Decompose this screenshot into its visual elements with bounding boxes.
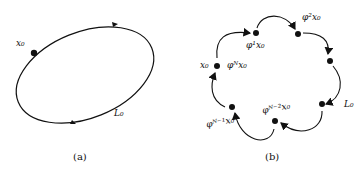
- label-L0-b: L₀: [344, 99, 354, 109]
- arrow-head-top: [112, 22, 118, 27]
- label-L0-a: L₀: [114, 108, 124, 118]
- diagram-canvas: [0, 0, 363, 170]
- label-phi-N: φᴺx₀: [227, 60, 247, 70]
- caption-a: (a): [73, 151, 87, 162]
- label-phi-2: φ²x₀: [302, 12, 321, 22]
- label-x0-a: x₀: [16, 38, 25, 48]
- point-x0: [31, 50, 37, 56]
- label-phi-1: φ¹x₀: [246, 40, 265, 50]
- caption-b: (b): [265, 151, 279, 162]
- panel-a-orbit: [2, 8, 168, 142]
- label-x0-b: x₀: [200, 60, 209, 70]
